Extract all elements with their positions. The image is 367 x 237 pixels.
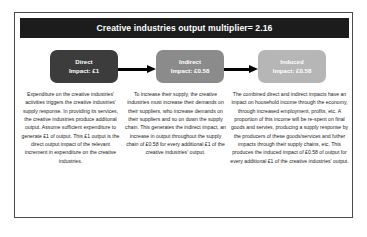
flow-box-induced-line2: Impact: £0.58 — [273, 67, 312, 76]
diagram-header-bar: Creative industries output multiplier= 2… — [20, 18, 349, 38]
flow-box-induced: Induced Impact: £0.58 — [258, 50, 326, 83]
flow-box-direct-line1: Direct — [75, 58, 92, 67]
arrow-head — [147, 65, 156, 73]
flow-box-direct: Direct Impact: £1 — [50, 50, 118, 83]
flow-box-direct-line2: Impact: £1 — [69, 67, 99, 76]
explanation-columns: Expenditure on the creative industries' … — [20, 90, 349, 212]
arrow-shaft — [118, 68, 147, 70]
flow-box-indirect-line1: Indirect — [179, 58, 201, 67]
flow-box-induced-line1: Induced — [280, 58, 303, 67]
diagram-title: Creative industries output multiplier= 2… — [97, 23, 273, 33]
explanation-text-indirect: To increase their supply, the creative i… — [125, 90, 226, 212]
flow-box-indirect-line2: Impact: £0.58 — [171, 67, 210, 76]
flow-box-indirect: Indirect Impact: £0.58 — [156, 50, 224, 83]
explanation-text-induced: The combined direct and indirect impacts… — [230, 90, 349, 212]
explanation-text-direct: Expenditure on the creative industries' … — [20, 90, 121, 212]
multiplier-diagram: Creative industries output multiplier= 2… — [14, 12, 353, 218]
impact-flow-row: Direct Impact: £1 Indirect Impact: £0.58… — [20, 46, 349, 88]
arrow-indirect-to-induced-icon — [224, 65, 258, 74]
arrow-direct-to-indirect-icon — [118, 65, 156, 74]
arrow-head — [249, 65, 258, 73]
arrow-shaft — [224, 68, 249, 70]
